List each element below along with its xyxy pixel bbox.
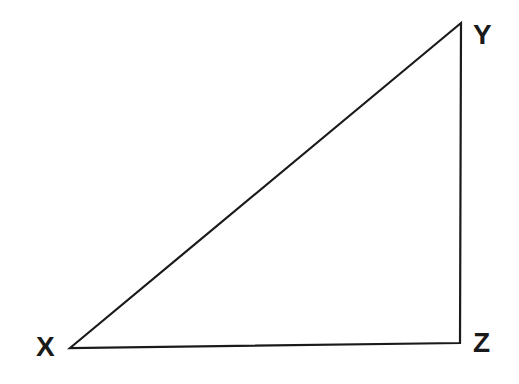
vertex-label-z: Z <box>473 329 490 357</box>
vertex-label-x: X <box>36 333 55 361</box>
triangle-diagram <box>0 0 519 384</box>
triangle-xyz <box>70 23 461 348</box>
vertex-label-y: Y <box>473 21 492 49</box>
